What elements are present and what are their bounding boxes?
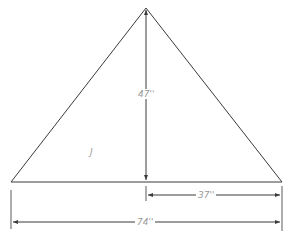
half-base-label: 37''	[196, 190, 216, 200]
height-label: 47''	[136, 89, 156, 99]
triangle-right-side	[146, 8, 282, 182]
triangle-left-side	[11, 8, 146, 182]
interior-mark-label: J	[88, 147, 95, 157]
base-label: 74''	[135, 217, 155, 227]
triangle-drawing	[0, 0, 289, 241]
